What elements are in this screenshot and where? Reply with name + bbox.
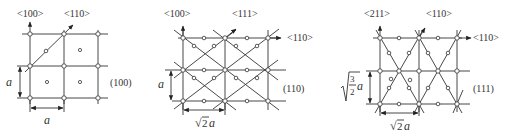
svg-text:√: √ <box>195 116 202 130</box>
label-plane-100: (100) <box>110 77 132 89</box>
label-dim-vertical: 3 2 a <box>341 72 363 101</box>
label-dim-horizontal: √ 2 a <box>195 116 215 130</box>
panel-100: <100> <110> (100) a a <box>6 8 132 127</box>
dimension-horizontal <box>380 106 419 116</box>
label-direction-110-right: <110> <box>473 32 499 43</box>
svg-text:a: a <box>357 79 363 93</box>
label-plane-110: (110) <box>283 83 304 95</box>
label-direction-111: <111> <box>232 8 258 19</box>
label-dim-vertical: a <box>6 75 12 89</box>
panel-111: <211> <110> <110> (111) 3 2 a √ 2 a <box>341 8 499 133</box>
svg-text:a: a <box>404 119 410 133</box>
label-plane-111: (111) <box>473 83 494 95</box>
label-direction-100: <100> <box>17 8 44 19</box>
svg-text:2: 2 <box>202 117 208 129</box>
svg-text:√: √ <box>390 119 397 133</box>
dimension-horizontal <box>30 100 64 112</box>
svg-text:2: 2 <box>350 87 355 97</box>
label-direction-211: <211> <box>364 8 390 19</box>
label-direction-110: <110> <box>287 32 313 43</box>
svg-text:a: a <box>209 116 215 130</box>
label-dim-horizontal: a <box>44 113 50 127</box>
label-dim-vertical: a <box>158 77 164 91</box>
label-dim-horizontal: √ 2 a <box>390 119 410 133</box>
svg-text:2: 2 <box>397 120 403 132</box>
panel-110: <100> <111> <110> (110) a √ 2 a <box>158 8 313 130</box>
label-direction-110: <110> <box>64 8 90 19</box>
label-direction-100: <100> <box>164 8 191 19</box>
svg-text:3: 3 <box>350 74 355 84</box>
label-direction-110-top: <110> <box>426 8 452 19</box>
